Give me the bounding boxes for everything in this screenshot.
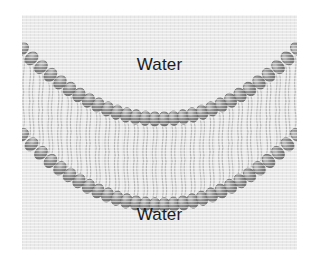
water-label-top: Water (22, 55, 297, 75)
figure-root: Water Water (0, 0, 309, 262)
diagram-panel: Water Water (22, 15, 297, 250)
water-label-bottom: Water (22, 205, 297, 225)
outer-leaflet-heads (22, 40, 297, 127)
inner-leaflet-heads (22, 126, 297, 213)
